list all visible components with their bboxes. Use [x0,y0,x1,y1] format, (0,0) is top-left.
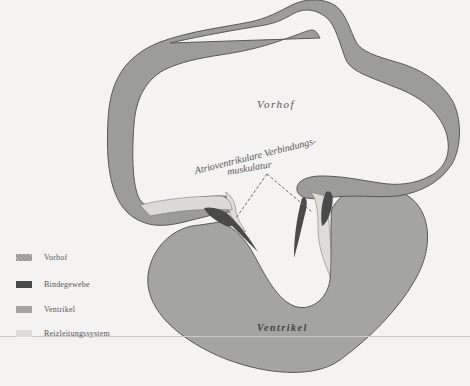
legend-item-vorhof: Vorhof [16,251,67,263]
legend-label-vorhof: Vorhof [44,253,67,262]
legend-swatch-reizleitungssystem-icon [16,330,32,337]
legend-swatch-bindegewebe-icon [16,281,32,288]
legend-swatch-vorhof-icon [16,254,32,261]
legend-item-reizleitungssystem: Reizleitungssystem [16,327,110,339]
legend-swatch-ventrikel-icon [16,306,32,313]
vorhof-shape [107,0,459,225]
ventrikel-label: Ventrikel [257,322,308,333]
legend-label-ventrikel: Ventrikel [44,305,75,314]
legend-item-bindegewebe: Bindegewebe [16,278,90,290]
vorhof-label: Vorhof [257,98,295,110]
legend-item-ventrikel: Ventrikel [16,303,75,315]
legend-label-bindegewebe: Bindegewebe [44,280,90,289]
bindegewebe-right-1 [294,198,307,259]
legend-label-reizleitungssystem: Reizleitungssystem [44,329,110,338]
pointer-line-left [236,174,267,218]
